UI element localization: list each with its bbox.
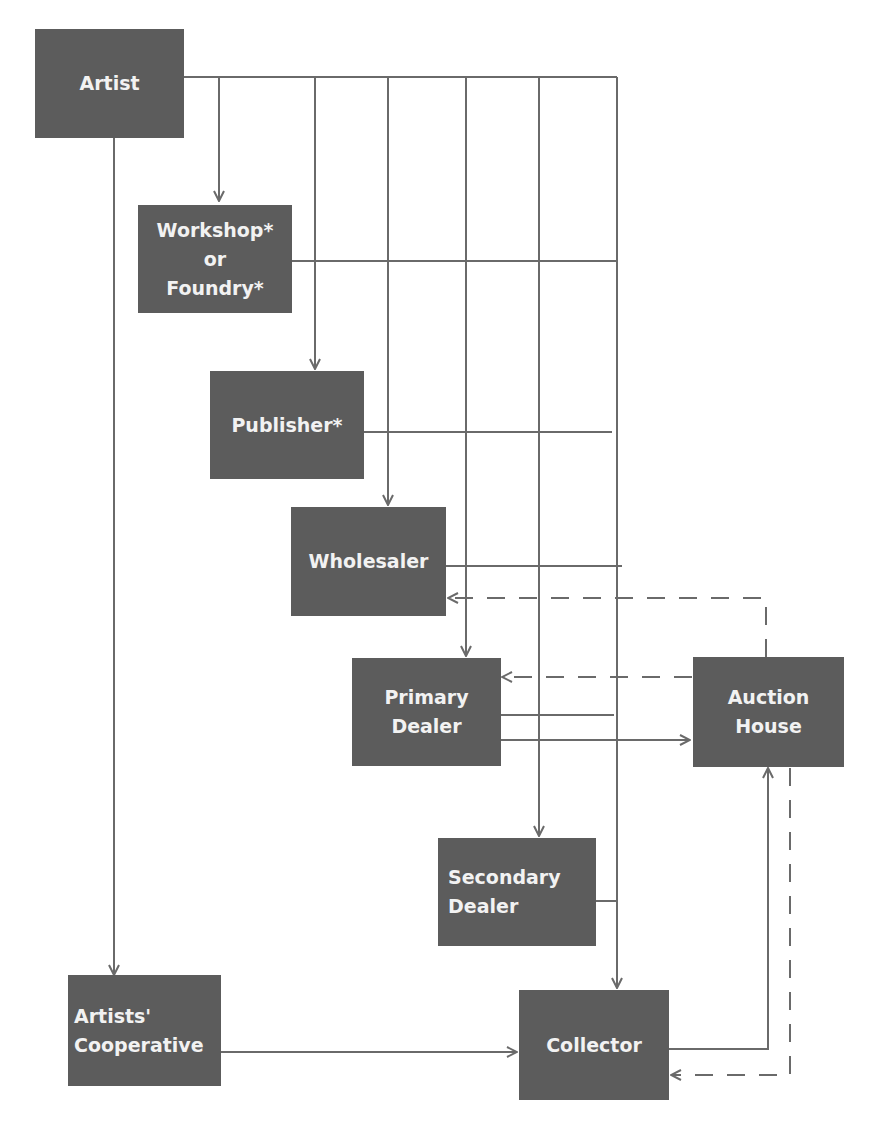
node-label: Artists' Cooperative xyxy=(74,1002,204,1060)
dashed-auction-collector xyxy=(671,768,790,1075)
node-label: Secondary Dealer xyxy=(448,863,561,921)
node-label: Workshop* or Foundry* xyxy=(157,216,274,303)
node-secondary-dealer: Secondary Dealer xyxy=(438,838,596,946)
node-label: Collector xyxy=(546,1031,642,1060)
node-artist: Artist xyxy=(35,29,184,138)
art-market-flow-diagram: Artist Workshop* or Foundry* Publisher* … xyxy=(0,0,881,1139)
node-label: Publisher* xyxy=(231,411,342,440)
node-publisher: Publisher* xyxy=(210,371,364,479)
node-label: Artist xyxy=(79,69,139,98)
node-primary-dealer: Primary Dealer xyxy=(352,658,501,766)
node-workshop-foundry: Workshop* or Foundry* xyxy=(138,205,292,313)
node-label: Primary Dealer xyxy=(384,683,468,741)
node-wholesaler: Wholesaler xyxy=(291,507,446,616)
dashed-auction-wholesaler xyxy=(448,598,766,657)
node-label: Auction House xyxy=(728,683,810,741)
node-collector: Collector xyxy=(519,990,669,1100)
edge-collector-auction xyxy=(669,768,768,1049)
node-auction-house: Auction House xyxy=(693,657,844,767)
node-label: Wholesaler xyxy=(309,547,429,576)
node-artists-cooperative: Artists' Cooperative xyxy=(68,975,221,1086)
